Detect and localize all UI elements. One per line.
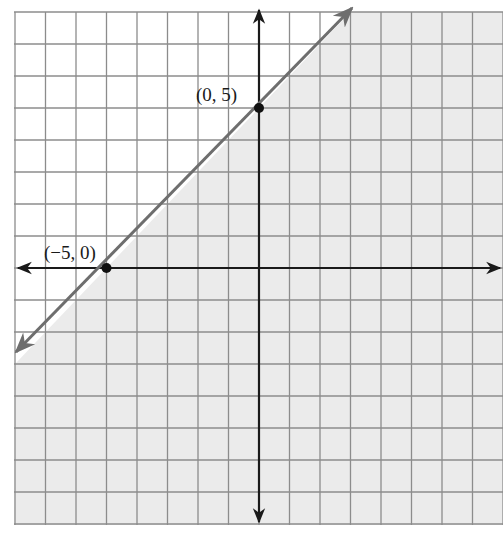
plotted-point <box>102 263 112 273</box>
point-label-0-5: (0, 5) <box>196 84 237 106</box>
point-label-neg5-0: (−5, 0) <box>44 242 96 264</box>
plotted-point <box>254 103 264 113</box>
inequality-graph: (0, 5) (−5, 0) <box>0 0 503 548</box>
